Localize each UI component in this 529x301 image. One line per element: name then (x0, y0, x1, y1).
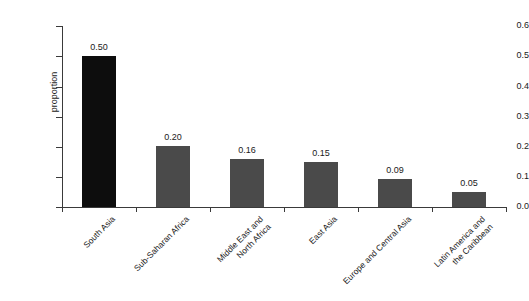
x-axis-tick (284, 207, 285, 212)
x-axis-category-label: South Asia (45, 214, 118, 287)
bar-value-label: 0.09 (373, 166, 417, 175)
x-axis-tick (136, 207, 137, 212)
y-axis-tick-label: 0.4 (499, 82, 529, 91)
x-axis-category-label-line: North Africa (201, 222, 274, 295)
bar-chart: proportion 0.6 0.5 0.4 0.3 0.2 0.1 0.0 0… (0, 0, 529, 301)
bar[interactable] (304, 162, 338, 207)
y-axis-title: proportion (48, 52, 60, 132)
bar-value-label: 0.50 (77, 43, 121, 52)
y-axis-tick-label: 0.1 (499, 172, 529, 181)
x-axis-category-label: Middle East and North Africa (193, 214, 274, 295)
x-axis-tick (62, 207, 63, 212)
x-axis-category-label: Sub-Saharan Africa (119, 214, 192, 287)
x-axis-category-label: East Asia (267, 214, 340, 287)
bar[interactable] (378, 179, 412, 207)
bar[interactable] (230, 159, 264, 207)
x-axis-category-label-line: South Asia (81, 214, 117, 250)
y-axis-tick-label: 0.6 (499, 21, 529, 30)
y-axis-tick-label: 0.5 (499, 51, 529, 60)
x-axis-category-label: Latin America and the Caribbean (415, 214, 496, 295)
bar-value-label: 0.15 (299, 149, 343, 158)
x-axis-tick (506, 207, 507, 212)
bar[interactable] (452, 192, 486, 207)
y-axis-tick (56, 147, 62, 148)
y-axis-tick-label: 0.3 (499, 112, 529, 121)
y-axis-tick (56, 26, 62, 27)
bar[interactable] (156, 146, 190, 207)
x-axis-category-label-line: Sub-Saharan Africa (132, 214, 191, 273)
y-axis-tick-label: 0.2 (499, 142, 529, 151)
y-axis-tick (56, 87, 62, 88)
x-axis-category-label: Europe and Central Asia (341, 214, 414, 287)
y-axis-tick (56, 117, 62, 118)
y-axis-tick (56, 177, 62, 178)
y-axis-tick-label: 0.0 (499, 202, 529, 211)
x-axis-category-label-line: East Asia (307, 214, 339, 246)
x-axis-tick (358, 207, 359, 212)
bar-value-label: 0.20 (151, 133, 195, 142)
x-axis-tick (432, 207, 433, 212)
bar-value-label: 0.16 (225, 146, 269, 155)
y-axis-line (62, 26, 63, 208)
bar[interactable] (82, 56, 116, 207)
x-axis-category-label-line: Europe and Central Asia (341, 214, 413, 286)
x-axis-tick (210, 207, 211, 212)
y-axis-tick (56, 56, 62, 57)
bar-value-label: 0.05 (447, 179, 491, 188)
x-axis-category-label-line: the Caribbean (423, 222, 496, 295)
